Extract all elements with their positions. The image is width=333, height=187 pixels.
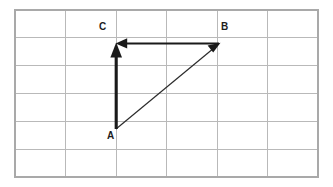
point-label-c: C: [99, 22, 106, 32]
vector-ac-vertical: [110, 43, 122, 129]
vector-ab-diagonal: [116, 43, 221, 129]
diagram-canvas: [0, 0, 333, 187]
vector-diagram-figure: A B C: [0, 0, 333, 187]
point-label-b: B: [221, 22, 228, 32]
vector-bc-horizontal: [116, 38, 219, 48]
point-label-a: A: [107, 131, 114, 141]
vector-ab-shaft: [116, 48, 214, 129]
grid-lines: [15, 10, 318, 177]
